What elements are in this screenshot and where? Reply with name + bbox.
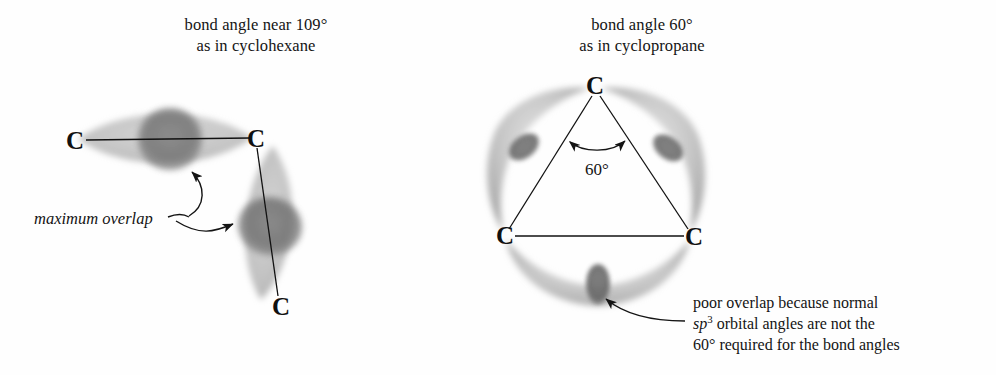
sp-orbital-symbol: sp — [693, 315, 707, 332]
right-overlap-region-bottom — [586, 264, 610, 304]
atom-label-right-c1: C — [586, 73, 604, 98]
maximum-overlap-arrow-lower — [176, 221, 233, 231]
maximum-overlap-label: maximum overlap — [34, 209, 153, 229]
atom-label-left-c1: C — [66, 128, 84, 153]
atom-label-left-c2: C — [247, 126, 265, 151]
right-bond-orbital-upper-left — [487, 87, 590, 231]
maximum-overlap-arrow-upper — [189, 172, 202, 216]
maximum-overlap-arrow-stem — [168, 214, 189, 217]
bond-angle-arc — [570, 141, 625, 150]
poor-overlap-line-2-text: orbital angles are not the — [713, 315, 875, 332]
poor-overlap-line-3: 60° required for the bond angles — [693, 335, 900, 356]
poor-overlap-line-2: sp3 orbital angles are not the — [693, 314, 900, 335]
left-diagonal-overlap-region — [233, 192, 306, 260]
poor-overlap-line-1: poor overlap because normal — [693, 293, 900, 314]
right-bond-orbital-upper-right — [601, 87, 705, 232]
atom-label-right-c3: C — [685, 224, 703, 249]
atom-label-right-c2: C — [496, 223, 514, 248]
poor-overlap-note: poor overlap because normal sp3 orbital … — [693, 293, 900, 355]
orbital-overlap-figure: bond angle near 109° as in cyclohexane b… — [0, 0, 996, 375]
atom-label-left-c3: C — [272, 294, 290, 319]
right-orbital-group — [487, 87, 705, 321]
bond-angle-label: 60° — [585, 160, 609, 180]
left-orbital-group — [78, 108, 307, 303]
